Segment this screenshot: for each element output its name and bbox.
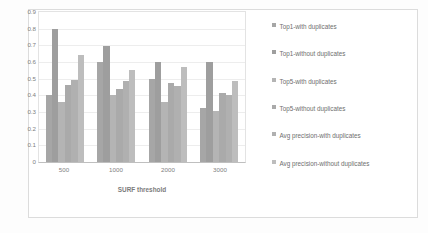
legend-label: Avg precision-without duplicates [280, 159, 370, 168]
legend-item[interactable]: Top1-with duplicates [272, 22, 404, 31]
bars-layer [39, 12, 245, 162]
bar [129, 70, 135, 163]
legend-label: Avg precision-with duplicates [280, 131, 361, 140]
y-tick-label: 0.3 [27, 109, 36, 115]
x-tick-label: 1000 [96, 166, 136, 173]
y-tick-label: 0.9 [27, 9, 36, 15]
y-axis-tick-labels: 0.90.80.70.60.50.40.30.20.10 [12, 11, 36, 163]
bar-group [97, 12, 135, 162]
bar [78, 55, 84, 163]
bar-group [149, 12, 187, 162]
x-axis-tick-labels: 500100020003000 [38, 166, 246, 173]
chart-legend: Top1-with duplicatesTop1-without duplica… [272, 22, 404, 186]
legend-swatch-icon [272, 50, 276, 54]
y-tick-label: 0.2 [27, 126, 36, 132]
legend-item[interactable]: Top5-with duplicates [272, 77, 404, 86]
legend-label: Top1-without duplicates [280, 49, 346, 58]
bar [232, 81, 238, 162]
bar-group [46, 12, 84, 162]
x-tick-label: 500 [44, 166, 84, 173]
legend-swatch-icon [272, 23, 276, 27]
y-tick-label: 0.6 [27, 59, 36, 65]
legend-swatch-icon [272, 105, 276, 109]
y-tick-label: 0.8 [27, 26, 36, 32]
legend-item[interactable]: Avg precision-without duplicates [272, 159, 404, 168]
legend-swatch-icon [272, 132, 276, 136]
plot-area [38, 11, 246, 163]
legend-label: Top5-without duplicates [280, 104, 346, 113]
legend-swatch-icon [272, 78, 276, 82]
y-tick-label: 0 [33, 159, 36, 165]
y-tick-label: 0.4 [27, 92, 36, 98]
x-tick-label: 2000 [148, 166, 188, 173]
x-tick-label: 3000 [200, 166, 240, 173]
legend-label: Top5-with duplicates [280, 77, 337, 86]
legend-item[interactable]: Top1-without duplicates [272, 49, 404, 58]
y-tick-label: 0.5 [27, 76, 36, 82]
bar [181, 67, 187, 162]
legend-item[interactable]: Top5-without duplicates [272, 104, 404, 113]
x-axis-title: SURF threshold [38, 186, 246, 193]
matching-precision-bar-chart: Matching precision 0.90.80.70.60.50.40.3… [0, 0, 428, 233]
y-tick-label: 0.1 [27, 142, 36, 148]
y-tick-label: 0.7 [27, 42, 36, 48]
legend-swatch-icon [272, 160, 276, 164]
legend-label: Top1-with duplicates [280, 22, 337, 31]
bar-group [200, 12, 238, 162]
legend-item[interactable]: Avg precision-with duplicates [272, 131, 404, 140]
